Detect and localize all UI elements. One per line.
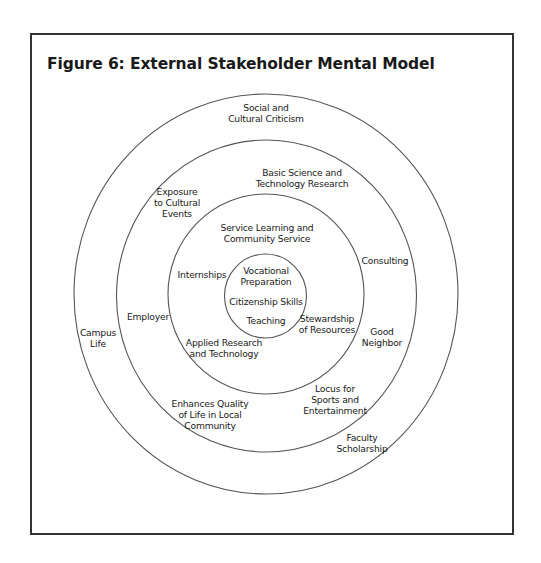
label-faculty-scholarship: FacultyScholarship bbox=[336, 432, 387, 454]
label-basic-science: Basic Science andTechnology Research bbox=[256, 167, 349, 189]
label-line: Service Learning and bbox=[221, 222, 314, 233]
label-line: of Life in Local bbox=[172, 409, 249, 420]
label-line: and Technology bbox=[186, 348, 262, 359]
label-line: Locus for bbox=[303, 383, 367, 394]
label-teaching: Teaching bbox=[247, 315, 286, 326]
label-line: of Resources bbox=[299, 324, 355, 335]
label-line: Basic Science and bbox=[256, 167, 349, 178]
label-line: Cultural Criticism bbox=[228, 113, 304, 124]
label-employer: Employer bbox=[127, 311, 169, 322]
label-line: Technology Research bbox=[256, 178, 349, 189]
label-line: Good bbox=[362, 326, 402, 337]
label-line: Community Service bbox=[221, 233, 314, 244]
label-line: Exposure bbox=[154, 186, 200, 197]
label-locus-sports-entertainment: Locus forSports andEntertainment bbox=[303, 383, 367, 416]
label-line: Enhances Quality bbox=[172, 398, 249, 409]
label-line: Stewardship bbox=[299, 313, 355, 324]
label-line: Scholarship bbox=[336, 443, 387, 454]
label-line: Vocational bbox=[241, 265, 292, 276]
label-line: to Cultural bbox=[154, 197, 200, 208]
label-service-learning: Service Learning andCommunity Service bbox=[221, 222, 314, 244]
label-good-neighbor: GoodNeighbor bbox=[362, 326, 402, 348]
label-line: Social and bbox=[228, 102, 304, 113]
outer-ring bbox=[74, 94, 458, 494]
label-consulting: Consulting bbox=[362, 255, 409, 266]
label-campus-life: CampusLife bbox=[80, 327, 116, 349]
label-line: Employer bbox=[127, 311, 169, 322]
label-social-cultural-criticism: Social andCultural Criticism bbox=[228, 102, 304, 124]
label-citizenship-skills: Citizenship Skills bbox=[229, 296, 302, 307]
label-line: Community bbox=[172, 420, 249, 431]
label-line: Preparation bbox=[241, 276, 292, 287]
label-line: Consulting bbox=[362, 255, 409, 266]
label-line: Internships bbox=[178, 269, 227, 280]
label-enhances-quality-of-life: Enhances Qualityof Life in LocalCommunit… bbox=[172, 398, 249, 431]
label-line: Sports and bbox=[303, 394, 367, 405]
label-exposure-cultural-events: Exposureto CulturalEvents bbox=[154, 186, 200, 219]
label-line: Neighbor bbox=[362, 337, 402, 348]
label-line: Life bbox=[80, 338, 116, 349]
label-line: Entertainment bbox=[303, 405, 367, 416]
label-line: Events bbox=[154, 208, 200, 219]
label-applied-research: Applied Researchand Technology bbox=[186, 337, 262, 359]
label-line: Applied Research bbox=[186, 337, 262, 348]
label-line: Campus bbox=[80, 327, 116, 338]
label-stewardship-of-resources: Stewardshipof Resources bbox=[299, 313, 355, 335]
label-line: Citizenship Skills bbox=[229, 296, 302, 307]
label-line: Faculty bbox=[336, 432, 387, 443]
label-line: Teaching bbox=[247, 315, 286, 326]
label-internships: Internships bbox=[178, 269, 227, 280]
label-vocational-preparation: VocationalPreparation bbox=[241, 265, 292, 287]
